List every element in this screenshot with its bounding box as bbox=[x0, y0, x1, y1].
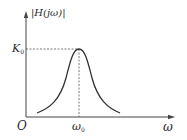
y-axis-arrow-icon bbox=[24, 11, 28, 18]
bandpass-response-diagram: |H(jω)| K0 O ω0 ω bbox=[0, 0, 187, 140]
plot-svg bbox=[0, 0, 187, 140]
magnitude-curve bbox=[37, 49, 120, 113]
peak-value-label: K0 bbox=[12, 43, 24, 55]
x-axis-arrow-icon bbox=[168, 115, 175, 119]
center-frequency-label: ω0 bbox=[72, 121, 85, 133]
x-axis-label: ω bbox=[163, 121, 173, 133]
origin-label: O bbox=[17, 120, 27, 132]
y-axis-label: |H(jω)| bbox=[31, 8, 66, 18]
